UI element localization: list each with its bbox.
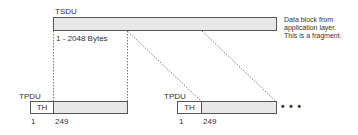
tpdu1-end: 249 bbox=[55, 117, 68, 126]
tsdu-note: Data block from application layer. This … bbox=[284, 16, 342, 40]
tsdu-block bbox=[53, 17, 277, 31]
dotted-line-tpdu2-end bbox=[202, 31, 276, 101]
tsdu-size-label: 1 - 2048 Bytes bbox=[56, 34, 108, 43]
continuation-dots: • • • bbox=[281, 102, 302, 111]
tpdu1-label: TPDU bbox=[19, 92, 41, 101]
tpdu2-data bbox=[201, 101, 277, 114]
tpdu2-end: 249 bbox=[203, 117, 216, 126]
tsdu-note-line-3: This is a fragment. bbox=[284, 32, 342, 40]
tsdu-note-line-1: Data block from bbox=[284, 16, 342, 24]
tsdu-note-line-2: application layer. bbox=[284, 24, 342, 32]
tpdu2-header: TH bbox=[177, 101, 202, 114]
tpdu2-header-label: TH bbox=[184, 103, 195, 112]
dotted-line-tpdu2-start bbox=[128, 31, 202, 101]
tpdu1-data bbox=[53, 101, 128, 114]
tsdu-label: TSDU bbox=[55, 7, 77, 16]
tpdu1-header-label: TH bbox=[37, 103, 48, 112]
tpdu1-start: 1 bbox=[31, 117, 35, 126]
tpdu2-label: TPDU bbox=[164, 92, 186, 101]
tpdu1-header: TH bbox=[30, 101, 54, 114]
tpdu2-start: 1 bbox=[179, 117, 183, 126]
